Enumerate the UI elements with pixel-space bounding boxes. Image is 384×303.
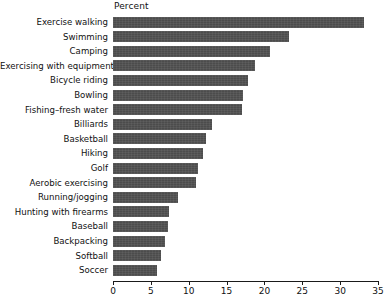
bar-row [113, 132, 378, 147]
x-axis-tick-label: 10 [183, 286, 194, 296]
bar [113, 104, 242, 115]
bar [113, 148, 203, 159]
bar [113, 60, 255, 71]
bar [113, 133, 206, 144]
bar [113, 221, 168, 232]
bar-row [113, 190, 378, 205]
category-label: Soccer [0, 263, 110, 278]
x-axis-tick-label: 25 [297, 286, 308, 296]
x-axis-tick-label: 30 [334, 286, 345, 296]
x-axis-tick [113, 281, 114, 285]
bar [113, 192, 178, 203]
category-label: Golf [0, 161, 110, 176]
category-label: Baseball [0, 219, 110, 234]
bar [113, 250, 161, 261]
bar [113, 90, 243, 101]
bar-row [113, 103, 378, 118]
bar-row [113, 88, 378, 103]
category-label: Running/jogging [0, 190, 110, 205]
category-label: Basketball [0, 132, 110, 147]
bar-row [113, 249, 378, 264]
bar [113, 206, 169, 217]
bar [113, 163, 198, 174]
bar-row [113, 161, 378, 176]
x-axis-tick-label: 20 [259, 286, 270, 296]
bar-rows [113, 15, 378, 278]
x-axis-tick-label: 15 [221, 286, 232, 296]
x-axis-tick [151, 281, 152, 285]
bar-row [113, 234, 378, 249]
category-label: Bowling [0, 88, 110, 103]
bar-row [113, 73, 378, 88]
category-label: Billiards [0, 117, 110, 132]
chart-title: Percent [114, 1, 149, 11]
bar-row [113, 117, 378, 132]
bar [113, 17, 364, 28]
category-label: Swimming [0, 30, 110, 45]
category-label: Aerobic exercising [0, 176, 110, 191]
bar-row [113, 263, 378, 278]
bar-row [113, 15, 378, 30]
category-label: Camping [0, 44, 110, 59]
bar-row [113, 146, 378, 161]
x-axis-tick-label: 5 [148, 286, 154, 296]
x-axis-tick-label: 0 [110, 286, 116, 296]
plot-area [113, 15, 378, 278]
bar-row [113, 219, 378, 234]
bar-row [113, 205, 378, 220]
x-axis-tick [340, 281, 341, 285]
category-label: Softball [0, 249, 110, 264]
bar-row [113, 44, 378, 59]
category-label: Hiking [0, 146, 110, 161]
bar [113, 236, 165, 247]
bar [113, 177, 196, 188]
category-axis-labels: Exercise walkingSwimmingCampingExercisin… [0, 15, 110, 278]
x-axis-tick-label: 35 [372, 286, 383, 296]
x-axis-tick [264, 281, 265, 285]
category-label: Hunting with firearms [0, 205, 110, 220]
x-axis-tick [302, 281, 303, 285]
bar-row [113, 176, 378, 191]
x-axis-tick [378, 281, 379, 285]
category-label: Backpacking [0, 234, 110, 249]
bar [113, 31, 289, 42]
bar-row [113, 30, 378, 45]
bar [113, 265, 157, 276]
x-axis-tick [189, 281, 190, 285]
category-label: Bicycle riding [0, 73, 110, 88]
category-label: Exercise walking [0, 15, 110, 30]
bar [113, 46, 270, 57]
bar-row [113, 59, 378, 74]
bar [113, 75, 248, 86]
category-label: Exercising with equipment [0, 59, 110, 74]
bar [113, 119, 212, 130]
category-label: Fishing–fresh water [0, 103, 110, 118]
x-axis-line [113, 281, 378, 282]
x-axis-tick [227, 281, 228, 285]
